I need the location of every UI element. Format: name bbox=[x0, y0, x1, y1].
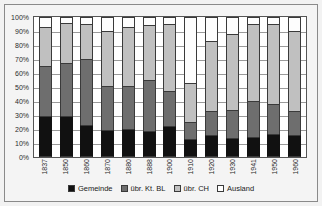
x-axis-tick-label: 1960 bbox=[292, 159, 299, 175]
x-axis-tick: 1880 bbox=[122, 159, 135, 175]
y-axis-tick-label: 50% bbox=[15, 84, 29, 91]
legend-item[interactable]: übr. Kt. BL bbox=[121, 185, 166, 193]
legend-item-label: übr. Kt. BL bbox=[131, 185, 166, 193]
bar-column[interactable] bbox=[101, 17, 114, 157]
x-axis-tick: 1837 bbox=[38, 159, 51, 175]
bar-segment[interactable] bbox=[226, 34, 239, 110]
y-axis: 100%90%80%70%60%50%40%30%20%10%0% bbox=[0, 16, 31, 158]
bar-column[interactable] bbox=[143, 17, 156, 157]
x-axis-tick-label: 1870 bbox=[104, 159, 111, 175]
bar-segment[interactable] bbox=[143, 25, 156, 80]
legend-swatch-icon bbox=[217, 185, 224, 192]
bar-segment[interactable] bbox=[39, 66, 52, 116]
bar-segment[interactable] bbox=[247, 101, 260, 137]
y-axis-tick-label: 40% bbox=[15, 98, 29, 105]
x-axis-tick: 1910 bbox=[184, 159, 197, 175]
bar-segment[interactable] bbox=[288, 111, 301, 136]
bar-segment[interactable] bbox=[247, 137, 260, 157]
bar-segment[interactable] bbox=[267, 24, 280, 104]
bar-segment[interactable] bbox=[184, 83, 197, 122]
bar-segment[interactable] bbox=[247, 24, 260, 101]
bar-column[interactable] bbox=[60, 17, 73, 157]
bar-column[interactable] bbox=[39, 17, 52, 157]
y-axis-tick-label: 10% bbox=[15, 140, 29, 147]
legend-swatch-icon bbox=[174, 185, 181, 192]
bar-segment[interactable] bbox=[122, 17, 135, 27]
x-axis-tick-label: 1888 bbox=[146, 159, 153, 175]
y-axis-tick-label: 30% bbox=[15, 112, 29, 119]
x-axis-tick-label: 1910 bbox=[187, 159, 194, 175]
bar-segment[interactable] bbox=[226, 17, 239, 34]
y-axis-tick-label: 60% bbox=[15, 70, 29, 77]
bar-column[interactable] bbox=[267, 17, 280, 157]
x-axis: 1837185018601870188018881900191019201930… bbox=[33, 159, 307, 185]
bar-segment[interactable] bbox=[163, 17, 176, 24]
plot-area bbox=[33, 16, 307, 158]
x-axis-tick-label: 1941 bbox=[250, 159, 257, 175]
legend-item[interactable]: übr. CH bbox=[174, 185, 209, 193]
x-axis-tick: 1870 bbox=[101, 159, 114, 175]
bar-segment[interactable] bbox=[80, 125, 93, 157]
legend-item[interactable]: Gemeinde bbox=[68, 185, 113, 193]
bar-column[interactable] bbox=[122, 17, 135, 157]
bar-segment[interactable] bbox=[101, 130, 114, 157]
x-axis-tick-label: 1860 bbox=[83, 159, 90, 175]
bar-segment[interactable] bbox=[247, 17, 260, 24]
bar-segment[interactable] bbox=[143, 17, 156, 25]
bar-segment[interactable] bbox=[80, 24, 93, 59]
bar-segment[interactable] bbox=[60, 63, 73, 116]
bar-segment[interactable] bbox=[267, 17, 280, 24]
bar-segment[interactable] bbox=[184, 17, 197, 83]
y-axis-tick-label: 80% bbox=[15, 42, 29, 49]
bar-segment[interactable] bbox=[205, 17, 218, 41]
bar-column[interactable] bbox=[163, 17, 176, 157]
bar-column[interactable] bbox=[288, 17, 301, 157]
bar-segment[interactable] bbox=[80, 59, 93, 125]
bar-segment[interactable] bbox=[39, 27, 52, 66]
bar-segment[interactable] bbox=[288, 17, 301, 31]
stacked-bar-chart: 100%90%80%70%60%50%40%30%20%10%0% 183718… bbox=[0, 0, 322, 206]
bar-segment[interactable] bbox=[163, 91, 176, 126]
bar-segment[interactable] bbox=[122, 27, 135, 86]
x-axis-tick: 1860 bbox=[80, 159, 93, 175]
bar-column[interactable] bbox=[184, 17, 197, 157]
bar-segment[interactable] bbox=[205, 111, 218, 135]
bar-segment[interactable] bbox=[205, 41, 218, 111]
legend-item-label: Gemeinde bbox=[78, 185, 113, 193]
bar-segment[interactable] bbox=[39, 17, 52, 27]
bar-segment[interactable] bbox=[122, 129, 135, 157]
bar-segment[interactable] bbox=[163, 126, 176, 157]
bar-column[interactable] bbox=[247, 17, 260, 157]
bar-segment[interactable] bbox=[101, 17, 114, 31]
bar-segment[interactable] bbox=[205, 135, 218, 157]
bar-column[interactable] bbox=[205, 17, 218, 157]
bar-segment[interactable] bbox=[39, 116, 52, 157]
bar-segment[interactable] bbox=[80, 17, 93, 24]
x-axis-tick-label: 1900 bbox=[166, 159, 173, 175]
bar-column[interactable] bbox=[226, 17, 239, 157]
bar-segment[interactable] bbox=[267, 104, 280, 134]
legend-swatch-icon bbox=[68, 185, 75, 192]
x-axis-tick: 1960 bbox=[289, 159, 302, 175]
bar-group bbox=[34, 17, 306, 157]
bar-segment[interactable] bbox=[226, 138, 239, 157]
bar-segment[interactable] bbox=[101, 31, 114, 86]
bar-segment[interactable] bbox=[60, 23, 73, 64]
bar-segment[interactable] bbox=[267, 134, 280, 157]
bar-segment[interactable] bbox=[163, 24, 176, 91]
bar-column[interactable] bbox=[80, 17, 93, 157]
bar-segment[interactable] bbox=[143, 80, 156, 131]
legend-item[interactable]: Ausland bbox=[217, 185, 254, 193]
legend-swatch-icon bbox=[121, 185, 128, 192]
bar-segment[interactable] bbox=[288, 135, 301, 157]
legend-item-label: übr. CH bbox=[184, 185, 209, 193]
y-axis-tick-label: 100% bbox=[11, 14, 29, 21]
bar-segment[interactable] bbox=[122, 86, 135, 129]
bar-segment[interactable] bbox=[226, 110, 239, 138]
bar-segment[interactable] bbox=[101, 86, 114, 131]
bar-segment[interactable] bbox=[60, 116, 73, 157]
bar-segment[interactable] bbox=[143, 131, 156, 157]
bar-segment[interactable] bbox=[288, 31, 301, 111]
bar-segment[interactable] bbox=[184, 122, 197, 139]
bar-segment[interactable] bbox=[184, 139, 197, 157]
